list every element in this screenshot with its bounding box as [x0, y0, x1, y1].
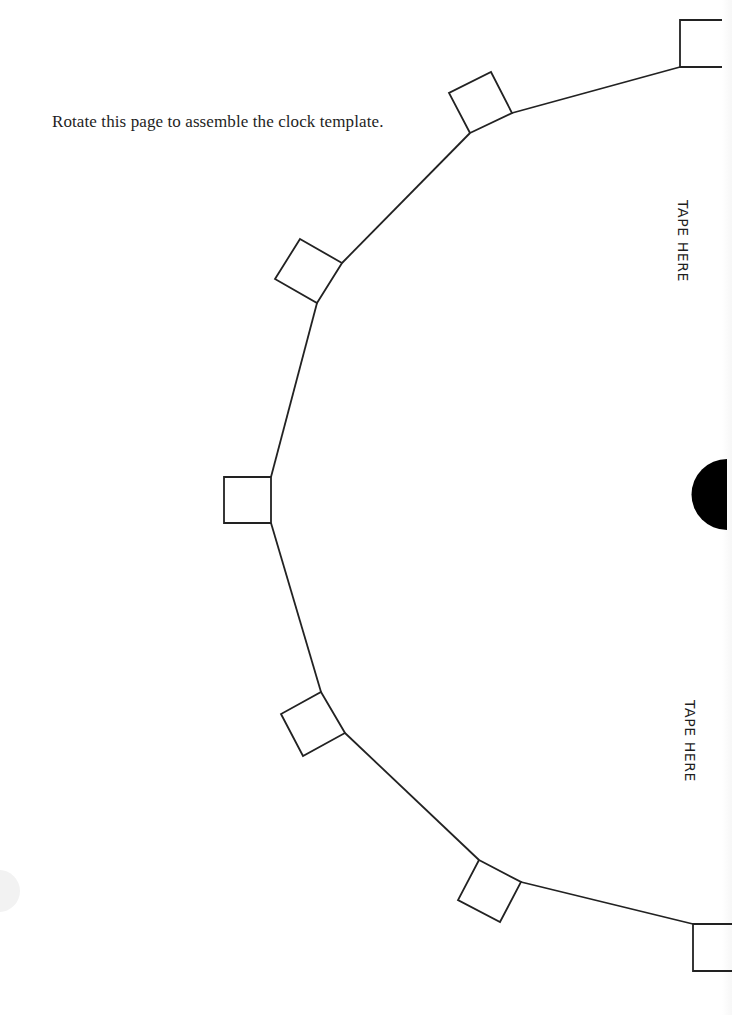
top-edge-tab	[680, 20, 722, 67]
clock-outline	[0, 0, 732, 1015]
arc-segment-2	[342, 133, 470, 263]
tape-here-label-top: TAPE HERE	[674, 191, 692, 291]
arc-segment-3	[271, 303, 317, 477]
bottom-edge-tab	[693, 924, 732, 971]
glue-tab-3	[224, 477, 271, 523]
arc-segment-5	[345, 733, 479, 860]
arc-segment-1	[512, 67, 680, 113]
glue-tab-5	[458, 860, 521, 922]
glue-tab-4	[281, 692, 345, 756]
arc-segment-4	[271, 523, 321, 692]
clock-template-page: Rotate this page to assemble the clock t…	[0, 0, 732, 1015]
arc-segment-6	[521, 882, 693, 924]
glue-tab-1	[449, 72, 512, 133]
center-half-circle-marker	[691, 459, 727, 530]
tape-here-label-bottom: TAPE HERE	[681, 691, 699, 791]
glue-tab-2	[275, 239, 342, 303]
